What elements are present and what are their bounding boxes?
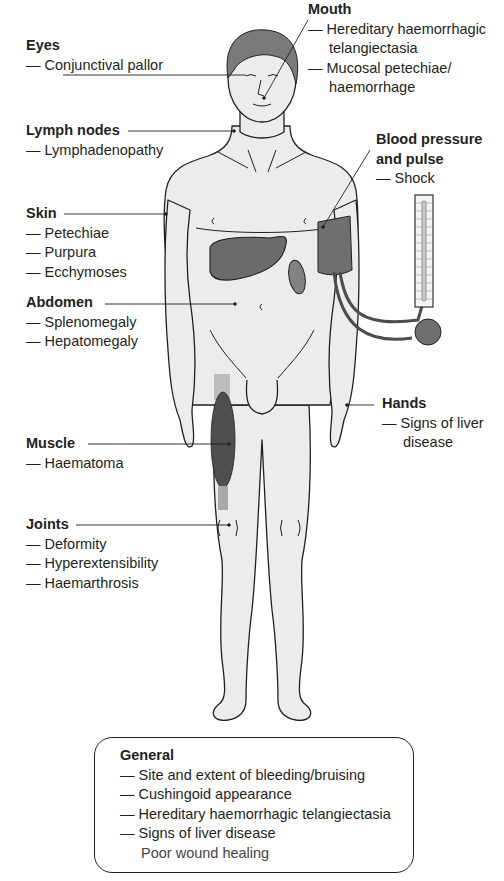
label-general-title: General [120, 746, 391, 766]
label-muscle-title: Muscle [26, 434, 124, 454]
muscle-haematoma [211, 392, 235, 488]
label-mouth-title: Mouth [308, 0, 486, 20]
manometer [415, 195, 433, 307]
label-mouth-item: — Mucosal petechiae/ [308, 59, 486, 79]
label-skin-item: — Ecchymoses [26, 263, 127, 283]
label-blood-pressure: Blood pressure and pulse — Shock [376, 130, 482, 189]
label-joints: Joints — Deformity — Hyperextensibility … [26, 515, 158, 593]
label-abdomen-title: Abdomen [26, 293, 138, 313]
label-muscle: Muscle — Haematoma [26, 434, 124, 473]
label-bp-title-2: and pulse [376, 150, 482, 170]
label-joints-title: Joints [26, 515, 158, 535]
label-hands-title: Hands [382, 394, 484, 414]
label-skin: Skin — Petechiae — Purpura — Ecchymoses [26, 204, 127, 282]
label-lymph-title: Lymph nodes [26, 121, 163, 141]
label-abdomen-item: — Splenomegaly [26, 313, 138, 333]
genitals [246, 380, 277, 414]
label-general-item: — Site and extent of bleeding/bruising [120, 766, 391, 786]
label-hands-item: — Signs of liver [382, 414, 484, 434]
label-lymph-item: — Lymphadenopathy [26, 141, 163, 161]
label-mouth-item: — Hereditary haemorrhagic [308, 20, 486, 40]
label-joints-item: — Haemarthrosis [26, 574, 158, 594]
label-eyes-title: Eyes [26, 36, 163, 56]
label-general-item: — Hereditary haemorrhagic telangiectasia [120, 805, 391, 825]
label-bp-title-1: Blood pressure [376, 130, 482, 150]
label-bp-item: — Shock [376, 169, 482, 189]
bp-bulb [415, 319, 441, 345]
label-general: General — Site and extent of bleeding/br… [120, 746, 391, 864]
label-lymph-nodes: Lymph nodes — Lymphadenopathy [26, 121, 163, 160]
label-mouth-item: haemorrhage [308, 78, 486, 98]
label-general-item: — Cushingoid appearance [120, 785, 391, 805]
label-mouth: Mouth — Hereditary haemorrhagic telangie… [308, 0, 486, 98]
label-abdomen-item: — Hepatomegaly [26, 332, 138, 352]
label-general-item: — Signs of liver disease [120, 824, 391, 844]
label-eyes: Eyes — Conjunctival pallor [26, 36, 163, 75]
label-general-item: Poor wound healing [120, 844, 391, 864]
label-hands: Hands — Signs of liver disease [382, 394, 484, 453]
label-eyes-item: — Conjunctival pallor [26, 56, 163, 76]
label-mouth-item: telangiectasia [308, 39, 486, 59]
label-abdomen: Abdomen — Splenomegaly — Hepatomegaly [26, 293, 138, 352]
label-joints-item: — Hyperextensibility [26, 554, 158, 574]
label-skin-item: — Purpura [26, 243, 127, 263]
label-hands-item: disease [382, 433, 484, 453]
label-skin-title: Skin [26, 204, 127, 224]
label-skin-item: — Petechiae [26, 224, 127, 244]
label-muscle-item: — Haematoma [26, 454, 124, 474]
bp-cuff [318, 216, 352, 275]
label-joints-item: — Deformity [26, 535, 158, 555]
